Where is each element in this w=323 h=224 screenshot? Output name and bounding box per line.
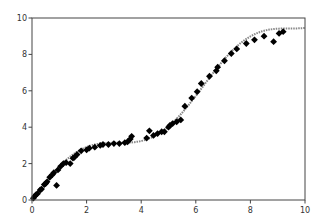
data-point <box>146 127 153 134</box>
x-tick-label: 10 <box>300 206 310 215</box>
data-points <box>30 28 287 201</box>
scatter-chart: 0246810 0246810 <box>0 0 323 224</box>
data-point <box>53 182 60 189</box>
y-tick-label: 8 <box>22 50 27 59</box>
data-point <box>198 80 205 87</box>
y-tick-label: 10 <box>17 14 27 23</box>
y-tick-label: 2 <box>22 160 27 169</box>
data-point <box>188 95 195 102</box>
data-point <box>228 50 235 57</box>
data-point <box>251 36 258 43</box>
y-tick-label: 0 <box>22 196 27 205</box>
data-point <box>116 140 123 147</box>
x-tick-label: 2 <box>84 206 89 215</box>
fit-curve <box>32 28 305 200</box>
x-tick-label: 0 <box>29 206 34 215</box>
data-point <box>233 46 240 53</box>
data-point <box>270 38 277 45</box>
y-tick-label: 4 <box>22 123 27 132</box>
x-tick-label: 4 <box>139 206 144 215</box>
x-tick-label: 6 <box>193 206 198 215</box>
data-point <box>105 141 112 148</box>
data-point <box>261 33 268 40</box>
data-point <box>221 57 228 64</box>
data-point <box>181 103 188 110</box>
data-point <box>194 88 201 95</box>
y-axis: 0246810 <box>17 14 32 205</box>
x-axis: 0246810 <box>29 200 310 215</box>
y-tick-label: 6 <box>22 87 27 96</box>
data-point <box>206 73 213 80</box>
x-tick-label: 8 <box>248 206 253 215</box>
fit-curve-line <box>32 28 305 200</box>
plot-frame <box>32 18 305 200</box>
